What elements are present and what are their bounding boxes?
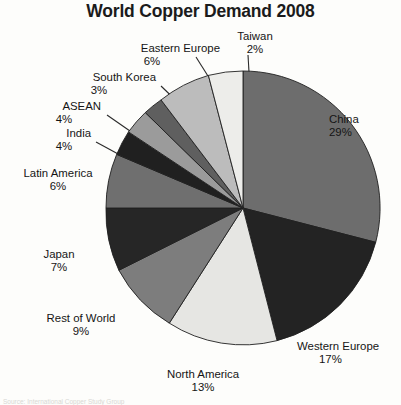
slice-label-western-europe: Western Europe 17% — [297, 340, 401, 365]
slice-label-rest-of-world-pct: 9% — [32, 325, 130, 338]
slice-label-latin-america-name: Latin America — [23, 167, 92, 179]
slice-label-western-europe-pct: 17% — [297, 353, 401, 366]
slice-label-south-korea: South Korea 3% — [58, 71, 156, 96]
slice-label-india: India 4% — [37, 127, 91, 152]
leader-line-taiwan — [248, 55, 249, 72]
slice-label-taiwan-name: Taiwan — [237, 30, 272, 42]
slice-label-india-name: India — [66, 127, 91, 139]
slice-label-rest-of-world: Rest of World 9% — [32, 312, 130, 337]
slice-label-latin-america-pct: 6% — [8, 180, 108, 193]
slice-label-asean: ASEAN 4% — [37, 100, 101, 125]
slice-label-taiwan: Taiwan 2% — [228, 30, 282, 55]
slice-label-asean-pct: 4% — [37, 113, 101, 126]
slice-label-india-pct: 4% — [37, 140, 91, 153]
slice-label-rest-of-world-name: Rest of World — [47, 312, 116, 324]
leader-line-india — [96, 142, 120, 155]
slice-label-latin-america: Latin America 6% — [8, 167, 108, 192]
slice-label-north-america-pct: 13% — [153, 381, 253, 394]
slice-label-eastern-europe-pct: 6% — [106, 55, 220, 68]
slice-label-china-pct: 29% — [329, 126, 399, 139]
slice-label-asean-name: ASEAN — [62, 100, 101, 112]
slice-label-western-europe-name: Western Europe — [297, 340, 379, 352]
slice-label-south-korea-pct: 3% — [58, 84, 156, 97]
slice-label-north-america: North America 13% — [153, 368, 253, 393]
slice-label-japan-pct: 7% — [30, 261, 88, 274]
slice-label-eastern-europe-name: Eastern Europe — [141, 42, 220, 54]
slice-label-japan: Japan 7% — [30, 248, 88, 273]
slice-label-south-korea-name: South Korea — [93, 71, 156, 83]
slice-label-china-name: China — [329, 113, 359, 125]
slice-label-north-america-name: North America — [167, 368, 239, 380]
slice-label-china: China 29% — [329, 113, 399, 138]
slice-label-eastern-europe: Eastern Europe 6% — [106, 42, 220, 67]
slice-label-japan-name: Japan — [43, 248, 74, 260]
slice-label-taiwan-pct: 2% — [228, 43, 282, 56]
source-note: Source: International Copper Study Group — [3, 398, 124, 405]
